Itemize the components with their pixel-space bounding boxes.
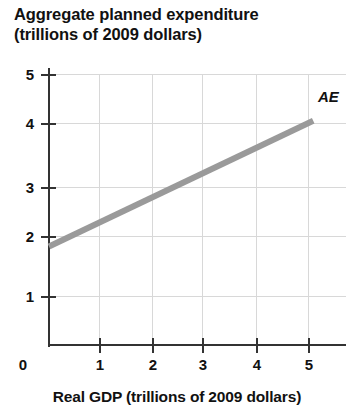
gridline-y-2 bbox=[48, 236, 346, 237]
gridline-y-1 bbox=[48, 296, 346, 297]
x-tick-label-2: 2 bbox=[142, 356, 164, 373]
y-tick-1 bbox=[41, 296, 56, 298]
y-tick-3 bbox=[41, 187, 56, 189]
y-tick-2 bbox=[41, 236, 56, 238]
y-tick-label-5: 5 bbox=[12, 66, 34, 83]
gridline-x-5 bbox=[308, 74, 309, 345]
x-axis-line bbox=[48, 344, 346, 346]
gridline-x-3 bbox=[202, 74, 203, 345]
gridline-y-4 bbox=[48, 123, 346, 124]
x-tick-label-4: 4 bbox=[246, 356, 268, 373]
y-tick-label-2: 2 bbox=[12, 228, 34, 245]
gridline-x-2 bbox=[152, 74, 153, 345]
aggregate-expenditure-chart: Aggregate planned expenditure (trillions… bbox=[0, 0, 354, 418]
y-axis-line bbox=[48, 68, 50, 347]
x-tick-5 bbox=[308, 338, 310, 353]
x-tick-1 bbox=[99, 338, 101, 353]
gridline-y-5 bbox=[48, 74, 346, 75]
y-tick-label-3: 3 bbox=[12, 179, 34, 196]
chart-title-line-1: Aggregate planned expenditure bbox=[14, 4, 344, 24]
gridline-x-4 bbox=[256, 74, 257, 345]
x-tick-3 bbox=[202, 338, 204, 353]
chart-title-line-2: (trillions of 2009 dollars) bbox=[14, 24, 344, 44]
ae-series-label: AE bbox=[318, 88, 338, 105]
gridline-y-3 bbox=[48, 187, 346, 188]
chart-title: Aggregate planned expenditure (trillions… bbox=[14, 4, 344, 44]
x-tick-label-3: 3 bbox=[192, 356, 214, 373]
origin-label: 0 bbox=[12, 356, 34, 373]
y-tick-label-1: 1 bbox=[12, 288, 34, 305]
x-tick-label-5: 5 bbox=[298, 356, 320, 373]
x-tick-2 bbox=[152, 338, 154, 353]
plot-area bbox=[48, 74, 346, 345]
gridline-x-1 bbox=[99, 74, 100, 345]
y-tick-label-4: 4 bbox=[12, 115, 34, 132]
x-tick-4 bbox=[256, 338, 258, 353]
x-axis-title: Real GDP (trillions of 2009 dollars) bbox=[0, 388, 354, 406]
y-tick-4 bbox=[41, 123, 56, 125]
x-tick-label-1: 1 bbox=[89, 356, 111, 373]
y-tick-5 bbox=[41, 74, 56, 76]
